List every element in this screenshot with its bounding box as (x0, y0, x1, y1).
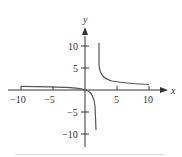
x-tick-label: −10 (10, 94, 26, 105)
curve-right-branch (99, 43, 149, 85)
x-tick-label: −5 (44, 94, 55, 105)
x-tick-label: 10 (143, 94, 153, 105)
bottom-rule (15, 154, 165, 155)
function-graph: x y −10 −5 5 10 10 5 −5 −10 (0, 0, 182, 157)
y-tick-label: −10 (62, 129, 78, 140)
y-tick-label: 10 (68, 41, 78, 52)
x-tick-label: 5 (114, 94, 119, 105)
y-axis-arrow-icon (82, 27, 88, 35)
y-tick-label: 5 (73, 63, 78, 74)
x-axis-label: x (170, 85, 176, 96)
x-axis-arrow-icon (160, 87, 168, 93)
y-tick-label: −5 (67, 107, 78, 118)
y-axis-label: y (82, 14, 88, 25)
